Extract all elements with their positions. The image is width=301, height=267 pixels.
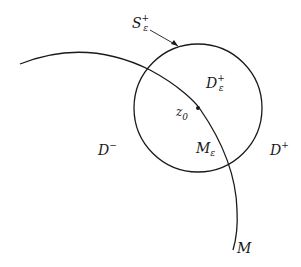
label-d-eps-plus: D+ε [205, 73, 225, 93]
label-d-plus: D+ [269, 140, 289, 158]
label-m-eps: Mε [195, 140, 215, 158]
arrowhead-icon [171, 40, 178, 46]
point-z0 [196, 106, 200, 110]
label-d-minus: D− [97, 140, 117, 158]
label-m: M [236, 240, 252, 256]
label-s-eps-plus: S+ε [132, 13, 149, 33]
diagram-canvas: S+ε D+ε z0 D− Mε D+ M [0, 0, 301, 267]
label-z0: z0 [175, 105, 188, 122]
